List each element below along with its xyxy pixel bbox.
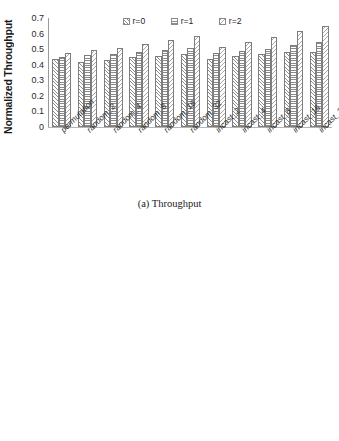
caption-throughput: (a) Throughput: [0, 198, 339, 209]
y-tick-label: 0: [39, 123, 44, 132]
x-tick-labels-throughput: permutationrandom_2random_4random_8rando…: [48, 128, 332, 196]
bar-r2-incast_4[interactable]: [245, 42, 251, 127]
y-tick-label: 0.2: [31, 91, 44, 100]
y-tick-label: 0.6: [31, 29, 44, 38]
bar-r2-incast_32[interactable]: [322, 26, 328, 127]
bar-r2-incast_8[interactable]: [271, 37, 277, 127]
bar-r2-incast_16[interactable]: [297, 31, 303, 127]
figure-container: Normalized Throughput r=0 r=1 r=2 00.10.…: [0, 0, 339, 441]
bar-r2-random_16[interactable]: [168, 40, 174, 127]
y-tick-label: 0.1: [31, 107, 44, 116]
panel-latency: Latency (cycles) r=0 r=1 r=2 01020304050…: [0, 220, 339, 441]
y-axis-title-throughput: Normalized Throughput: [2, 14, 14, 139]
y-tick-label: 0.7: [31, 14, 44, 23]
y-tick-label: 0.4: [31, 60, 44, 69]
panel-throughput: Normalized Throughput r=0 r=1 r=2 00.10.…: [0, 0, 339, 220]
bar-r2-incast_2[interactable]: [219, 47, 225, 127]
y-tick-label: 0.5: [31, 45, 44, 54]
y-tick-label: 0.3: [31, 76, 44, 85]
bar-r2-random_32[interactable]: [194, 36, 200, 127]
bar-group: [49, 18, 75, 127]
